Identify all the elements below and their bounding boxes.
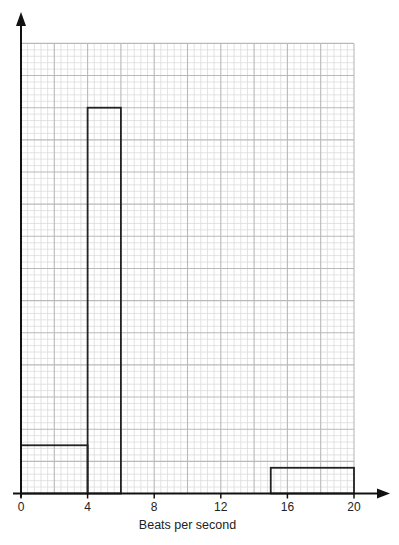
x-axis-ticks: 048121620 (18, 494, 361, 514)
axes: 048121620 (13, 12, 390, 514)
grid-major-lines (21, 43, 354, 493)
x-tick-label: 16 (281, 500, 295, 514)
y-axis-arrow-icon (16, 12, 26, 26)
x-axis-arrow-icon (377, 489, 390, 499)
x-tick-label: 20 (347, 500, 361, 514)
x-tick-label: 4 (84, 500, 91, 514)
x-tick-label: 12 (214, 500, 228, 514)
x-tick-label: 8 (151, 500, 158, 514)
histogram-chart: 048121620 Beats per second (0, 0, 399, 545)
x-tick-label: 0 (18, 500, 25, 514)
x-axis-title: Beats per second (139, 518, 236, 532)
